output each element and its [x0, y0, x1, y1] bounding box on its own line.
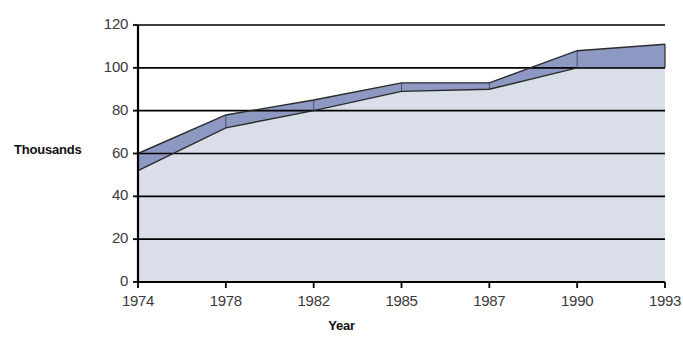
area-chart: Thousands Year 020406080100120 197419781… [0, 0, 683, 344]
plot-area [0, 0, 683, 344]
